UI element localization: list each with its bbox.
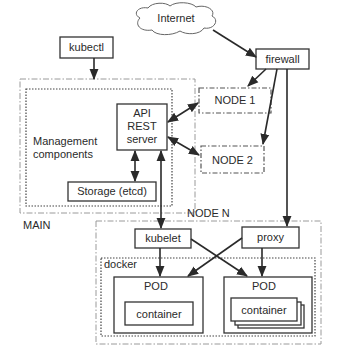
api-label-line3: server [127,133,158,145]
node1-node: NODE 1 [199,88,271,113]
node2-node: NODE 2 [201,146,264,173]
pod-left-label: POD [144,280,168,292]
api-server-node: API REST server [117,104,167,150]
pod-right-label: POD [252,280,276,292]
docker-label: docker [104,258,137,270]
pod-left-container-label: container [136,308,182,320]
pod-left-node: POD container [114,277,203,333]
kubelet-label: kubelet [145,232,180,244]
management-label-line1: Management [33,135,97,147]
kubectl-node: kubectl [60,37,113,58]
api-label-line1: API [133,107,151,119]
management-label-line2: components [33,148,93,160]
main-label: MAIN [23,219,51,231]
api-label-line2: REST [127,120,157,132]
firewall-node: firewall [256,49,309,69]
node2-label: NODE 2 [212,154,253,166]
pod-right-node: POD container [224,277,312,333]
storage-label: Storage (etcd) [77,185,147,197]
firewall-label: firewall [265,53,299,65]
internet-label: Internet [157,12,194,24]
storage-node: Storage (etcd) [68,182,156,201]
architecture-diagram: MAIN Management components NODE N docker… [0,0,339,361]
pod-right-container-label: container [241,304,287,316]
edge-proxy-pod-left [188,238,242,276]
node-n-label: NODE N [187,207,230,219]
kubelet-node: kubelet [135,229,191,248]
edge-firewall-node1 [248,69,266,86]
edge-internet-firewall [213,30,256,57]
proxy-node: proxy [242,227,299,248]
edge-kubelet-pod-right [191,239,247,276]
node1-label: NODE 1 [215,94,256,106]
internet-cloud: Internet [136,3,215,35]
edge-api-node2 [168,137,199,155]
proxy-label: proxy [257,231,284,243]
kubectl-label: kubectl [69,41,104,53]
